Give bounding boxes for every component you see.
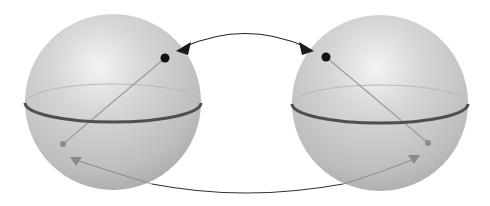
top-double-arrow: [176, 34, 314, 56]
left-gray-state-dot: [60, 141, 66, 147]
bloch-sphere-diagram: Two Bloch spheres with state vectors; bl…: [0, 0, 490, 206]
bottom-connector-curve: [152, 184, 343, 193]
top-arrow-curve: [184, 34, 306, 48]
right-gray-state-dot: [425, 140, 431, 146]
diagram-canvas: [0, 0, 490, 206]
left-sphere: [25, 14, 201, 190]
right-black-state-dot: [322, 53, 331, 62]
right-sphere: [292, 15, 468, 191]
left-black-state-dot: [161, 54, 170, 63]
